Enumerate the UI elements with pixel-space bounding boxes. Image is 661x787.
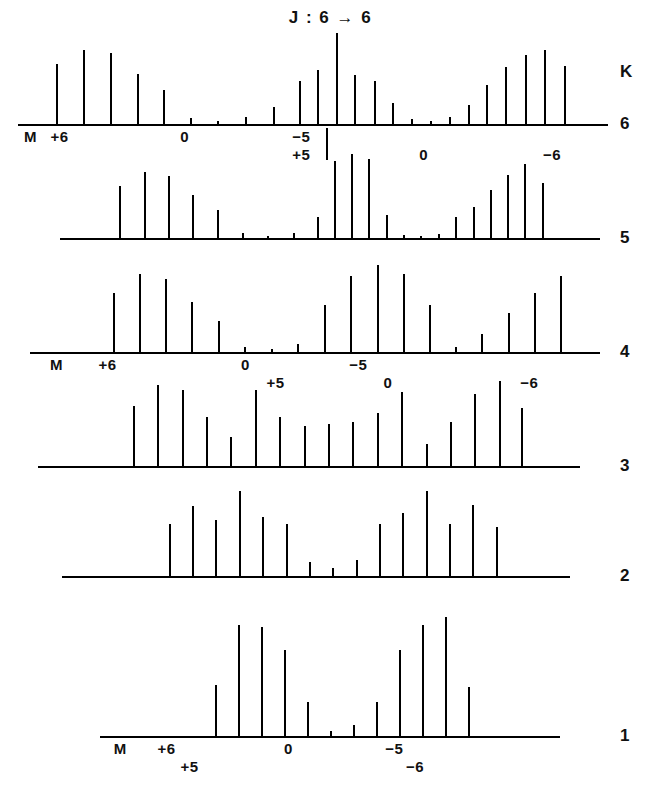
spectral-line [490, 190, 492, 239]
spectral-line [420, 236, 422, 239]
spectral-line [299, 81, 301, 125]
figure-title: J : 6 → 6 [0, 8, 661, 28]
k-axis-header: K [620, 62, 632, 82]
axis-annotation-tick-zero: 0 [284, 740, 293, 757]
spectral-line [273, 107, 275, 125]
spectrum-row-k1 [100, 618, 560, 738]
spectral-line [402, 513, 404, 577]
spectrum-figure: J : 6 → 6 K 6M+60−5+50−654M+60+5−50−6321… [0, 0, 661, 787]
spectral-line [271, 349, 273, 353]
axis-annotation-tick-plus-6: +6 [50, 128, 68, 145]
spectral-line [377, 265, 379, 353]
spectral-line [297, 344, 299, 353]
spectral-line [192, 506, 194, 577]
spectral-line [376, 702, 378, 737]
spectral-line [261, 627, 263, 737]
baseline-axis [62, 576, 570, 578]
spectral-line [481, 334, 483, 353]
axis-annotation-tick-minus-5: −5 [349, 356, 367, 373]
spectral-line [336, 33, 338, 125]
spectral-line [139, 274, 141, 353]
spectral-line [328, 424, 330, 467]
spectral-line [468, 687, 470, 737]
spectral-line [474, 394, 476, 467]
spectral-line [392, 103, 394, 125]
spectral-line [455, 347, 457, 353]
spectral-line [56, 64, 58, 125]
spectral-line [449, 117, 451, 125]
axis-annotation-tick-zero-left: 0 [180, 128, 189, 145]
spectral-line [245, 117, 247, 125]
spectral-line [191, 302, 193, 353]
axis-annotation-tick-plus-6: +6 [98, 356, 116, 373]
spectral-line [215, 520, 217, 577]
spectral-line [169, 524, 171, 577]
spectral-line [411, 119, 413, 125]
spectral-line [324, 305, 326, 353]
axis-annotation-m-marker: M [114, 740, 127, 757]
spectral-line [217, 210, 219, 239]
spectral-line [262, 517, 264, 577]
spectral-line [230, 437, 232, 467]
axis-annotation-m-marker: M [50, 356, 63, 373]
spectral-line [113, 293, 115, 353]
axis-annotation-tick-plus-5: +5 [181, 758, 199, 775]
spectral-line [374, 81, 376, 125]
spectral-line [255, 390, 257, 467]
spectral-line [445, 617, 447, 737]
spectrum-row-k5 [60, 155, 600, 240]
spectral-line [403, 235, 405, 239]
spectral-line [351, 154, 353, 239]
spectral-line [304, 426, 306, 467]
axis-annotation-m-marker: M [24, 128, 37, 145]
spectrum-row-k6 [18, 34, 608, 126]
spectrum-row-k4 [30, 266, 600, 354]
spectral-line [244, 347, 246, 353]
spectral-line [426, 491, 428, 577]
axis-annotation-tick-minus-6: −6 [406, 758, 424, 775]
spectral-line [368, 159, 370, 239]
spectral-line [508, 313, 510, 353]
spectral-line [163, 90, 165, 125]
baseline-axis [18, 124, 608, 126]
spectral-line [356, 560, 358, 577]
spectral-line [499, 381, 501, 467]
spectral-line [564, 66, 566, 125]
spectral-line [317, 217, 319, 239]
spectral-line [133, 406, 135, 467]
spectrum-row-k2 [62, 492, 570, 578]
spectral-line [429, 305, 431, 353]
spectral-line [144, 172, 146, 239]
spectral-line [238, 625, 240, 738]
axis-annotation-tick-zero-left: 0 [241, 356, 250, 373]
spectral-line [354, 75, 356, 125]
spectral-line [168, 176, 170, 239]
k-row-label-1: 1 [620, 726, 629, 746]
spectral-line [242, 233, 244, 239]
spectral-line [307, 702, 309, 737]
spectral-line [119, 186, 121, 239]
spectral-line [524, 164, 526, 239]
spectral-line [560, 276, 562, 353]
spectral-line [267, 236, 269, 239]
spectral-line [403, 274, 405, 353]
spectral-line [137, 74, 139, 125]
spectral-line [215, 685, 217, 738]
spectral-line [350, 276, 352, 353]
m-scale-divider [326, 128, 328, 160]
spectral-line [544, 50, 546, 125]
spectral-line [239, 491, 241, 577]
spectral-line [353, 725, 355, 738]
spectral-line [332, 568, 334, 577]
spectral-line [330, 731, 332, 737]
spectral-line [473, 207, 475, 239]
spectral-line [334, 161, 336, 239]
spectral-line [534, 293, 536, 353]
spectral-line [286, 524, 288, 577]
spectral-line [192, 195, 194, 239]
axis-annotation-tick-plus-6: +6 [158, 740, 176, 757]
spectral-line [422, 625, 424, 738]
spectral-line [83, 50, 85, 125]
baseline-axis [60, 238, 600, 240]
spectral-line [379, 524, 381, 577]
